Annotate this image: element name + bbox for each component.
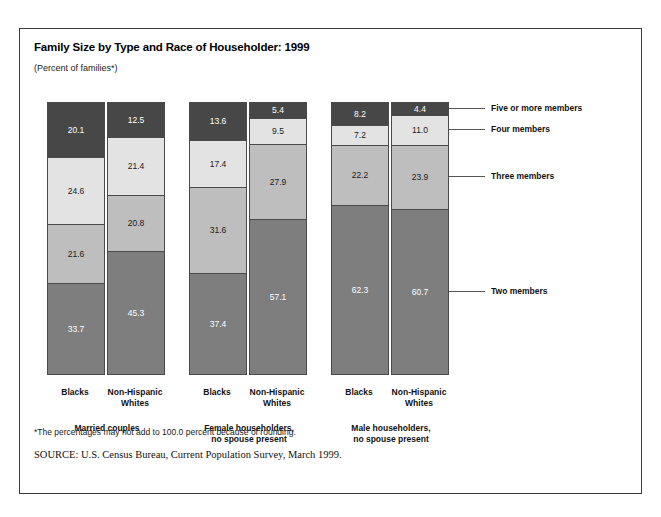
bar-segment-value: 45.3 <box>128 309 145 318</box>
bar-segment[interactable]: 11.0 <box>392 115 448 145</box>
bar-segment[interactable]: 21.4 <box>108 137 164 195</box>
bar-segment-value: 33.7 <box>68 325 85 334</box>
bar-segment[interactable]: 62.3 <box>332 205 388 374</box>
legend-label[interactable]: Three members <box>491 171 554 181</box>
chart-footnote: *The percentages may not add to 100.0 pe… <box>34 427 296 437</box>
legend-leader-line <box>449 108 485 109</box>
bar-segment[interactable]: 17.4 <box>190 140 246 187</box>
bar-segment-value: 62.3 <box>352 286 369 295</box>
bar-segment[interactable]: 20.8 <box>108 195 164 251</box>
bar-segment-value: 24.6 <box>68 187 85 196</box>
bar-segment-value: 57.1 <box>270 293 287 302</box>
bar-segment[interactable]: 12.5 <box>108 103 164 137</box>
stacked-bar[interactable]: 20.124.621.633.7 <box>47 102 105 375</box>
legend-label[interactable]: Four members <box>491 124 550 134</box>
legend-label[interactable]: Two members <box>491 286 548 296</box>
group-axis-label: Male householders,no spouse present <box>296 423 486 445</box>
bar-segment[interactable]: 5.4 <box>250 103 306 118</box>
bar-segment-value: 9.5 <box>272 127 284 136</box>
bar-segment[interactable]: 37.4 <box>190 273 246 374</box>
legend-leader-line <box>449 291 485 292</box>
bar-segment[interactable]: 8.2 <box>332 103 388 125</box>
bar-segment[interactable]: 20.1 <box>48 103 104 157</box>
legend-leader-line <box>449 129 485 130</box>
chart-plot-area: 20.124.621.633.7Blacks12.521.420.845.3No… <box>20 29 643 495</box>
bar-segment-value: 20.8 <box>128 219 145 228</box>
bar-segment-value: 27.9 <box>270 178 287 187</box>
bar-segment-value: 11.0 <box>412 126 428 135</box>
bar-segment[interactable]: 22.2 <box>332 145 388 205</box>
bar-segment-value: 5.4 <box>272 106 284 115</box>
bar-segment[interactable]: 31.6 <box>190 187 246 273</box>
stacked-bar[interactable]: 8.27.222.262.3 <box>331 102 389 375</box>
bar-segment[interactable]: 27.9 <box>250 144 306 220</box>
bar-segment-value: 4.4 <box>414 105 426 114</box>
bar-segment[interactable]: 13.6 <box>190 103 246 140</box>
bar-segment-value: 21.4 <box>128 162 145 171</box>
bar-segment[interactable]: 45.3 <box>108 251 164 374</box>
chart-source: SOURCE: U.S. Census Bureau, Current Popu… <box>34 449 342 460</box>
bar-segment[interactable]: 33.7 <box>48 283 104 374</box>
bar-segment-value: 8.2 <box>354 110 366 119</box>
bar-segment[interactable]: 60.7 <box>392 209 448 373</box>
bar-segment[interactable]: 7.2 <box>332 125 388 145</box>
bar-axis-label: Non-HispanicWhites <box>364 387 474 409</box>
stacked-bar[interactable]: 4.411.023.960.7 <box>391 102 449 375</box>
bar-segment-value: 23.9 <box>412 173 429 182</box>
source-label: SOURCE: <box>34 449 78 460</box>
bar-segment[interactable]: 57.1 <box>250 219 306 374</box>
bar-segment-value: 37.4 <box>210 320 227 329</box>
bar-segment-value: 12.5 <box>128 116 145 125</box>
bar-segment[interactable]: 21.6 <box>48 224 104 283</box>
bar-segment-value: 22.2 <box>352 171 369 180</box>
bar-segment[interactable]: 24.6 <box>48 157 104 224</box>
stacked-bar[interactable]: 5.49.527.957.1 <box>249 102 307 375</box>
bar-segment-value: 60.7 <box>412 288 429 297</box>
bar-segment[interactable]: 23.9 <box>392 145 448 210</box>
legend-label[interactable]: Five or more members <box>491 103 582 113</box>
bar-segment[interactable]: 4.4 <box>392 103 448 115</box>
bar-segment-value: 17.4 <box>210 160 227 169</box>
bar-segment-value: 20.1 <box>68 126 85 135</box>
stacked-bar[interactable]: 12.521.420.845.3 <box>107 102 165 375</box>
bar-segment-value: 7.2 <box>354 131 366 140</box>
stacked-bar[interactable]: 13.617.431.637.4 <box>189 102 247 375</box>
source-text: U.S. Census Bureau, Current Population S… <box>81 449 342 460</box>
legend-leader-line <box>449 176 485 177</box>
bar-segment[interactable]: 9.5 <box>250 118 306 144</box>
bar-segment-value: 21.6 <box>68 250 85 259</box>
bar-segment-value: 13.6 <box>210 117 227 126</box>
bar-segment-value: 31.6 <box>210 226 227 235</box>
figure-frame: Family Size by Type and Race of Househol… <box>19 28 642 494</box>
